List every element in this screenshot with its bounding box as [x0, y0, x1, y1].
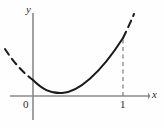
- origin-tick-label: 0: [23, 99, 29, 110]
- x-axis-arrowhead: [148, 93, 151, 100]
- math-figure: y x 0 1: [0, 0, 164, 128]
- x-tick-label-one: 1: [120, 99, 126, 110]
- curve-dashed-right: [123, 14, 134, 38]
- curve-solid-main: [33, 38, 123, 93]
- x-axis-label: x: [152, 89, 157, 100]
- curve-dashed-left: [5, 49, 33, 80]
- y-axis-label: y: [26, 4, 31, 15]
